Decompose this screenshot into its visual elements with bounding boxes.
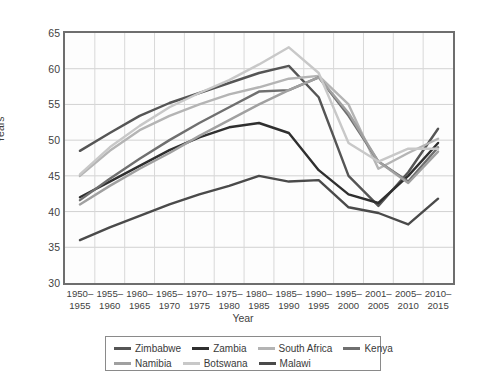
x-tick-line: 1955– [96,288,123,300]
plot-area [63,31,455,285]
x-tick-line: 2010 [395,300,422,312]
x-tick-label: 1965–1970 [156,288,183,311]
x-tick-line: 1965 [126,300,153,312]
legend-swatch-icon [192,347,209,350]
x-tick-label: 1950–1955 [67,288,94,311]
y-tick-label: 45 [32,170,60,182]
legend-label: South Africa [279,343,333,354]
legend: ZimbabweZambiaSouth AfricaKenya NamibiaB… [105,336,381,371]
x-tick-label: 2005–2010 [395,288,422,311]
x-tick-line: 1985– [276,288,303,300]
legend-item-zambia[interactable]: Zambia [192,343,246,354]
chart-root: 3035404550556065 Years 1950–19551955–196… [0,0,486,375]
y-axis: 3035404550556065 [28,31,60,285]
series-botswana [80,47,438,174]
legend-swatch-icon [183,362,200,365]
legend-swatch-icon [343,347,360,350]
x-tick-line: 2010– [425,288,452,300]
x-tick-line: 1970 [156,300,183,312]
x-tick-label: 1995–2000 [335,288,362,311]
y-tick-label: 55 [32,98,60,110]
x-tick-line: 1980 [216,300,243,312]
y-tick-label: 60 [32,63,60,75]
legend-label: Zimbabwe [135,343,181,354]
x-tick-label: 2010–2015 [425,288,452,311]
legend-row-2: NamibiaBotswanaMalawi [114,356,380,371]
legend-item-botswana[interactable]: Botswana [183,358,248,369]
x-tick-label: 1960–1965 [126,288,153,311]
x-tick-line: 1990– [305,288,332,300]
x-tick-line: 1965– [156,288,183,300]
legend-label: Kenya [364,343,392,354]
legend-label: Namibia [135,358,172,369]
x-tick-line: 1960 [96,300,123,312]
x-tick-line: 1955 [67,300,94,312]
x-tick-line: 2005– [395,288,422,300]
y-tick-label: 50 [32,134,60,146]
x-tick-label: 1975–1980 [216,288,243,311]
series-namibia [80,77,438,204]
series-kenya [80,77,438,200]
x-tick-line: 1995 [305,300,332,312]
x-tick-line: 1985 [246,300,273,312]
legend-swatch-icon [114,362,131,365]
x-tick-label: 1955–1960 [96,288,123,311]
legend-swatch-icon [259,362,276,365]
x-tick-line: 1950– [67,288,94,300]
x-tick-line: 1975 [186,300,213,312]
legend-swatch-icon [114,347,131,350]
legend-item-zimbabwe[interactable]: Zimbabwe [114,343,181,354]
x-tick-label: 2001–2005 [365,288,392,311]
y-tick-label: 40 [32,206,60,218]
legend-label: Botswana [204,358,248,369]
series-lines [65,33,453,283]
x-tick-line: 2000 [335,300,362,312]
x-tick-label: 1985–1990 [276,288,303,311]
legend-item-namibia[interactable]: Namibia [114,358,172,369]
x-tick-line: 1990 [276,300,303,312]
x-tick-line: 1995– [335,288,362,300]
x-tick-label: 1990–1995 [305,288,332,311]
y-tick-label: 30 [32,277,60,289]
legend-item-kenya[interactable]: Kenya [343,343,392,354]
legend-row-1: ZimbabweZambiaSouth AfricaKenya [114,341,380,356]
x-tick-line: 2001– [365,288,392,300]
legend-item-south-africa[interactable]: South Africa [258,343,333,354]
x-tick-line: 1980– [246,288,273,300]
legend-label: Zambia [213,343,246,354]
x-tick-line: 1970– [186,288,213,300]
x-tick-label: 1980–1985 [246,288,273,311]
series-malawi [80,176,438,240]
y-tick-label: 35 [32,241,60,253]
x-axis-title: Year [0,312,486,324]
x-tick-line: 1960– [126,288,153,300]
x-tick-line: 2015 [425,300,452,312]
x-tick-label: 1970–1975 [186,288,213,311]
y-tick-label: 65 [32,27,60,39]
legend-item-malawi[interactable]: Malawi [259,358,311,369]
x-tick-line: 2005 [365,300,392,312]
y-axis-title: Years [0,117,6,143]
x-tick-line: 1975– [216,288,243,300]
legend-label: Malawi [280,358,311,369]
legend-swatch-icon [258,347,275,350]
